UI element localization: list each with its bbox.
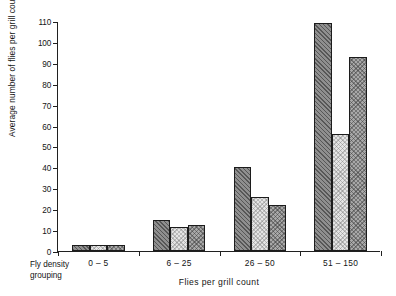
y-tick-label-80: 80 (42, 80, 51, 89)
y-tick-label-40: 40 (42, 164, 51, 173)
x-tick-2 (220, 251, 221, 256)
y-tick-60 (53, 127, 58, 128)
y-tick-label-100: 100 (38, 38, 51, 47)
y-axis-title: Average number of flies per grill count (7, 0, 17, 137)
bar-group-2 (234, 22, 287, 251)
y-tick-label-70: 70 (42, 101, 51, 110)
y-tick-40 (53, 168, 58, 169)
y-tick-label-110: 110 (39, 18, 51, 27)
x-tick-3 (300, 251, 301, 256)
y-tick-label-10: 10 (42, 227, 51, 236)
bar-26–50-series-3 (269, 205, 287, 251)
x-axis-title: Flies per grill count (58, 277, 380, 287)
bar-0–5-series-1 (72, 245, 90, 251)
x-tick-end (381, 251, 382, 256)
bar-26–50-series-1 (234, 167, 252, 251)
x-tick-0 (58, 251, 59, 256)
x-tick-label-1: 6 – 25 (167, 258, 192, 268)
corner-label-line-1: Fly density (30, 260, 69, 271)
bar-6–25-series-3 (188, 225, 206, 251)
y-tick-label-50: 50 (42, 143, 51, 152)
y-tick-50 (53, 147, 58, 148)
x-tick-label-0: 0 – 5 (88, 258, 108, 268)
y-tick-20 (53, 210, 58, 211)
y-tick-label-60: 60 (42, 122, 51, 131)
bar-6–25-series-2 (170, 227, 188, 251)
bar-0–5-series-2 (90, 245, 108, 251)
y-tick-90 (53, 64, 58, 65)
bar-51–150-series-3 (349, 57, 367, 251)
x-tick-label-3: 51 – 150 (323, 258, 358, 268)
y-tick-label-20: 20 (42, 206, 51, 215)
y-tick-label-30: 30 (42, 185, 51, 194)
y-tick-70 (53, 106, 58, 107)
bar-51–150-series-1 (314, 23, 332, 251)
x-tick-1 (139, 251, 140, 256)
bar-0–5-series-3 (107, 245, 125, 251)
bar-chart-figure: Average number of flies per grill count … (0, 0, 396, 296)
plot-area: 0102030405060708090100110 0 – 56 – 2526 … (57, 22, 380, 252)
y-tick-100 (53, 43, 58, 44)
bar-51–150-series-2 (332, 134, 350, 251)
bar-group-3 (314, 22, 367, 251)
bar-group-0 (72, 22, 125, 251)
x-tick-label-2: 26 – 50 (245, 258, 275, 268)
y-tick-label-0: 0 (47, 248, 51, 257)
y-tick-label-90: 90 (42, 59, 51, 68)
bar-6–25-series-1 (153, 220, 171, 251)
y-tick-110 (53, 22, 58, 23)
bar-26–50-series-2 (251, 197, 269, 251)
y-tick-30 (53, 189, 58, 190)
bar-group-1 (153, 22, 206, 251)
y-tick-80 (53, 85, 58, 86)
y-tick-10 (53, 231, 58, 232)
